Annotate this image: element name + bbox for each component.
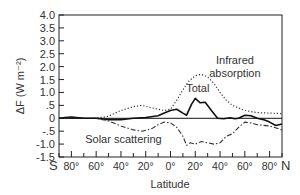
annotations: InfraredabsorptionTotalSolar scattering	[85, 54, 260, 145]
y-tick-label: 2.0	[40, 61, 55, 73]
y-tick-label: 2.5	[40, 48, 55, 60]
x-axis-label: Latitude	[150, 178, 189, 190]
y-tick-label: -1.0	[36, 138, 55, 150]
x-tick-label: 80°	[63, 160, 79, 172]
annotation-label: Total	[186, 82, 209, 94]
chart: 4.03.53.02.52.01.51.0.50-.5-1.0-1.5 80°6…	[0, 0, 300, 195]
y-tick-label: 4.0	[40, 9, 55, 21]
north-label: N	[281, 158, 290, 173]
y-tick-label: 1.0	[40, 86, 55, 98]
y-tick-label: 3.0	[40, 35, 55, 47]
annotation-label: Infrared	[216, 54, 254, 66]
x-axis-ticks: 80°60°40°20°0°20°40°60°80°	[59, 151, 282, 172]
annotation-label: Solar scattering	[85, 133, 161, 145]
y-tick-label: .5	[46, 99, 55, 111]
y-tick-label: -.5	[42, 125, 55, 137]
annotation-label: absorption	[209, 67, 260, 79]
x-tick-label: 60°	[88, 160, 104, 172]
x-tick-label: 60°	[237, 160, 253, 172]
series-total	[59, 98, 282, 125]
x-tick-label: 40°	[212, 160, 228, 172]
y-axis-ticks: 4.03.53.02.52.01.51.0.50-.5-1.0-1.5	[36, 9, 64, 163]
x-tick-label: 80°	[262, 160, 278, 172]
y-tick-label: 1.5	[40, 74, 55, 86]
y-tick-label: 3.5	[40, 22, 55, 34]
series-infrared-absorption	[59, 74, 282, 118]
x-tick-label: 20°	[187, 160, 203, 172]
x-tick-label: 20°	[138, 160, 154, 172]
y-axis-label: ΔF (W m⁻²)	[14, 58, 26, 115]
y-tick-label: 0	[49, 112, 55, 124]
south-label: S	[49, 158, 58, 173]
x-tick-label: 0°	[165, 160, 175, 172]
x-tick-label: 40°	[113, 160, 129, 172]
